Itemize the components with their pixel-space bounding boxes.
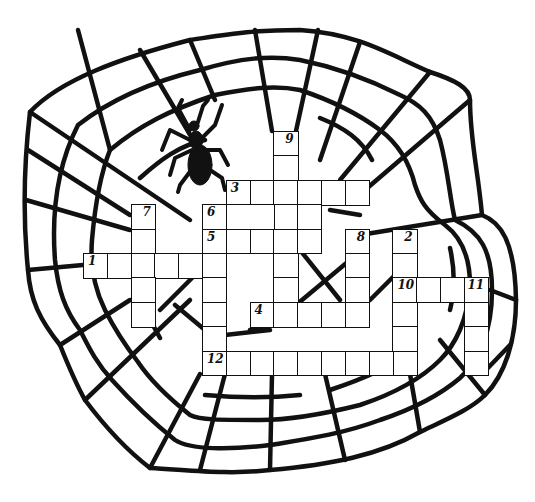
crossword-cell[interactable] [392,326,417,352]
clue-number: 12 [207,353,224,365]
crossword-cell[interactable] [273,229,298,255]
crossword-cell[interactable] [202,326,227,352]
crossword-cell[interactable] [226,351,251,377]
crossword-cell[interactable] [273,253,298,279]
crossword-cell[interactable] [250,351,275,377]
crossword-cell[interactable]: 1 [83,253,108,279]
crossword-cell[interactable] [440,277,465,303]
crossword-cell[interactable] [273,204,298,230]
clue-number: 4 [255,304,263,316]
clue-number: 1 [88,255,96,267]
crossword-cell[interactable] [345,180,370,206]
clue-number: 9 [285,133,293,145]
crossword-cell[interactable]: 7 [131,204,156,230]
crossword-cell[interactable] [226,229,251,255]
crossword-cell[interactable]: 9 [273,131,298,157]
crossword-cell[interactable] [464,326,489,352]
crossword-cell[interactable] [178,253,203,279]
crossword-cell[interactable] [154,253,179,279]
crossword-cell[interactable] [297,351,322,377]
crossword-cell[interactable] [416,277,441,303]
crossword-cell[interactable] [107,253,132,279]
crossword-cell[interactable]: 4 [250,302,275,328]
crossword-cell[interactable] [392,253,417,279]
crossword-cell[interactable]: 12 [202,351,227,377]
crossword-cell[interactable]: 8 [345,229,370,255]
crossword-cell[interactable] [202,277,227,303]
crossword-cell[interactable]: 3 [226,180,251,206]
crossword-cell[interactable] [321,351,346,377]
crossword-cell[interactable] [131,277,156,303]
crossword-cell[interactable] [273,302,298,328]
crossword-cell[interactable] [202,253,227,279]
crossword-cell[interactable] [345,277,370,303]
clue-number: 5 [207,231,215,243]
clue-number: 10 [397,279,414,291]
crossword-cell[interactable] [345,253,370,279]
clue-number: 8 [357,231,365,243]
crossword-cell[interactable] [131,229,156,255]
clue-number: 11 [467,279,484,291]
clue-number: 2 [404,231,412,243]
crossword-cell[interactable] [464,302,489,328]
crossword-cell[interactable] [273,155,298,181]
crossword-cell[interactable]: 5 [202,229,227,255]
crossword-cell[interactable] [345,302,370,328]
crossword-cell[interactable] [321,180,346,206]
clue-number: 6 [207,206,215,218]
crossword-cell[interactable] [250,180,275,206]
crossword-cell[interactable] [321,302,346,328]
crossword-cell[interactable] [392,351,417,377]
crossword-cell[interactable] [226,204,275,230]
crossword-cell[interactable] [131,253,156,279]
crossword-cell[interactable] [297,229,322,255]
crossword-cell[interactable] [250,229,275,255]
crossword-cell[interactable]: 6 [202,204,227,230]
crossword-cell[interactable]: 11 [464,277,489,303]
crossword-cell[interactable] [202,302,227,328]
crossword-cell[interactable] [345,351,370,377]
crossword-cell[interactable]: 10 [392,277,417,303]
crossword-cell[interactable] [273,351,298,377]
crossword-cell[interactable] [369,351,394,377]
crossword-cell[interactable] [392,302,417,328]
crossword-cell[interactable] [273,277,298,303]
crossword-cell[interactable]: 2 [392,229,417,255]
crossword-cell[interactable] [297,302,322,328]
crossword-cell[interactable] [464,351,489,377]
crossword-grid: 121034561278911 [0,0,535,502]
crossword-cell[interactable] [131,302,156,328]
crossword-cell[interactable] [273,180,298,206]
clue-number: 3 [231,182,239,194]
crossword-cell[interactable] [297,180,322,206]
clue-number: 7 [143,206,151,218]
crossword-cell[interactable] [297,204,322,230]
